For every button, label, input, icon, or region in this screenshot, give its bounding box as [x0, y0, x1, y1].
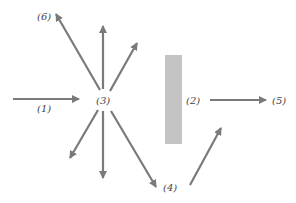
scattering-diagram: (1) (2) (3) (4) (5) (6): [0, 0, 296, 203]
return-arrow: [190, 128, 221, 185]
label-5: (5): [272, 95, 286, 106]
label-1: (1): [37, 103, 51, 114]
scatter-arrow-downleft: [70, 110, 98, 158]
label-3: (3): [96, 95, 110, 106]
label-2: (2): [186, 95, 200, 106]
scatter-arrow-4: [111, 111, 156, 187]
barrier: [165, 55, 182, 144]
scatter-arrow-upright: [110, 43, 137, 91]
scatter-arrow-6: [56, 14, 100, 90]
label-6: (6): [37, 11, 51, 22]
label-4: (4): [163, 182, 177, 193]
